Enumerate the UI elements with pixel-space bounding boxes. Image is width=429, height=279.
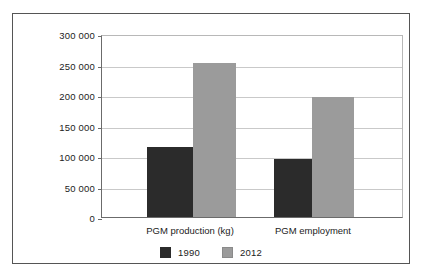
y-tick-label-300000: 300 000 — [59, 30, 95, 41]
y-tick-mark-50000 — [98, 189, 102, 190]
bar-pgm-employment-2012 — [312, 97, 354, 217]
bar-pgm-production-2012 — [193, 63, 236, 217]
y-tick-mark-300000 — [98, 36, 102, 37]
y-tick-label-100000: 100 000 — [59, 152, 95, 163]
legend-swatch-2012-icon — [222, 247, 233, 258]
chart-figure-frame: 300 000 250 000 200 000 150 000 100 000 … — [12, 13, 410, 264]
gridline-250000 — [102, 67, 402, 68]
y-tick-label-150000: 150 000 — [59, 121, 95, 132]
y-tick-mark-250000 — [98, 67, 102, 68]
y-tick-label-50000: 50 000 — [65, 182, 95, 193]
legend-entry-1990: 1990 — [160, 247, 200, 258]
y-tick-mark-200000 — [98, 97, 102, 98]
bar-pgm-production-1990 — [147, 147, 193, 217]
y-tick-label-0: 0 — [90, 213, 95, 224]
category-label-pgm-employment: PGM employment — [275, 225, 351, 236]
y-tick-mark-150000 — [98, 128, 102, 129]
chart-legend: 1990 2012 — [13, 247, 409, 258]
bar-pgm-employment-1990 — [274, 159, 312, 217]
category-label-pgm-production: PGM production (kg) — [146, 225, 234, 236]
y-tick-mark-0 — [98, 219, 102, 220]
gridline-150000 — [102, 128, 402, 129]
legend-label-1990: 1990 — [178, 247, 200, 258]
y-tick-label-200000: 200 000 — [59, 91, 95, 102]
gridline-200000 — [102, 97, 402, 98]
plot-area — [101, 35, 403, 218]
y-axis-tick-labels: 300 000 250 000 200 000 150 000 100 000 … — [33, 35, 95, 218]
y-tick-mark-100000 — [98, 158, 102, 159]
y-tick-label-250000: 250 000 — [59, 60, 95, 71]
legend-entry-2012: 2012 — [222, 247, 262, 258]
legend-label-2012: 2012 — [240, 247, 262, 258]
legend-swatch-1990-icon — [160, 247, 171, 258]
